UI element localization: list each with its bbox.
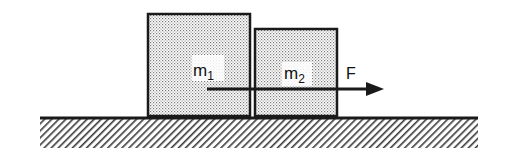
ground-hatch	[40, 119, 478, 148]
block-m2: m2	[255, 29, 337, 116]
diagram-canvas: m1 m2 F	[0, 0, 508, 163]
arrowhead-icon	[366, 82, 384, 96]
force-label: F	[346, 65, 356, 82]
block-m1: m1	[148, 14, 250, 116]
ground-surface	[40, 118, 478, 148]
